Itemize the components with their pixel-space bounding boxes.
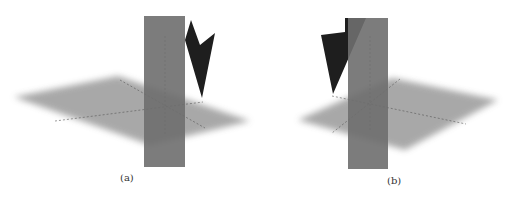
caption-a: (a) — [120, 172, 134, 183]
vertical-plane-b — [348, 18, 388, 169]
figure-b — [298, 18, 498, 169]
diagram-canvas — [0, 0, 513, 201]
vertical-plane-a — [144, 16, 185, 167]
caption-b: (b) — [387, 175, 401, 186]
figure-a — [14, 16, 250, 167]
horizontal-plane-b — [298, 78, 498, 150]
horizontal-plane-a — [14, 76, 250, 145]
dark-plane-a — [185, 20, 215, 98]
